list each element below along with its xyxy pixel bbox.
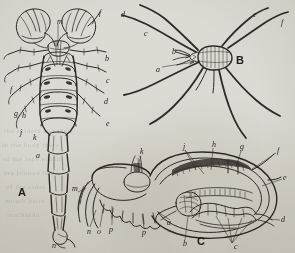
panel-b-harvestman <box>122 5 288 138</box>
label-c-k: k <box>140 148 144 156</box>
label-c-j: j <box>183 143 185 151</box>
label-a-j: j <box>20 129 22 137</box>
leader-c-o <box>100 209 103 227</box>
label-a-b: b <box>105 55 109 63</box>
left-pedipalp-icon <box>16 9 55 48</box>
label-a-h: h <box>22 112 26 120</box>
figure-plate: the spiders and their in the body there … <box>0 0 295 253</box>
label-a-k: k <box>33 134 37 142</box>
label-b-d: d <box>121 11 125 19</box>
label-c-p-right: p <box>142 229 146 237</box>
label-a-m: m <box>57 18 63 26</box>
legs-right <box>70 47 106 116</box>
cephalothorax <box>48 41 69 66</box>
label-b-c: c <box>144 30 148 38</box>
label-c-c: c <box>234 243 238 251</box>
label-c-f: f <box>277 147 279 155</box>
label-a-a: a <box>36 152 40 160</box>
label-a-n: n <box>52 242 56 250</box>
label-b-e: e <box>253 11 257 19</box>
label-a-f-top: f <box>99 9 101 17</box>
label-c-h: h <box>212 141 216 149</box>
label-c-b: b <box>183 240 187 248</box>
leader-c-c3 <box>232 218 242 243</box>
panel-label-b: B <box>236 55 244 66</box>
label-c-e: e <box>283 174 287 182</box>
label-a-d: d <box>104 98 108 106</box>
label-c-n: n <box>87 228 91 236</box>
label-a-c: c <box>106 77 110 85</box>
label-c-a: a <box>167 219 171 227</box>
label-a-g: g <box>14 110 18 118</box>
label-c-g: g <box>240 143 244 151</box>
label-b-b: b <box>172 48 176 56</box>
label-b-f: f <box>281 19 283 27</box>
panel-label-a: A <box>18 187 26 198</box>
leader-c-d <box>268 219 280 220</box>
label-c-d: d <box>281 216 285 224</box>
label-c-m: m <box>72 185 78 193</box>
label-c-o: o <box>97 228 101 236</box>
right-pedipalp-icon <box>57 9 100 48</box>
mesosoma <box>40 52 78 135</box>
label-a-f-left: f <box>10 86 12 94</box>
metasoma-tail <box>48 132 75 248</box>
panel-label-c: C <box>197 236 205 247</box>
label-b-a: a <box>156 66 160 74</box>
label-c-p-left: p <box>109 226 113 234</box>
label-a-e: e <box>106 120 110 128</box>
leader-c-f <box>252 153 276 169</box>
